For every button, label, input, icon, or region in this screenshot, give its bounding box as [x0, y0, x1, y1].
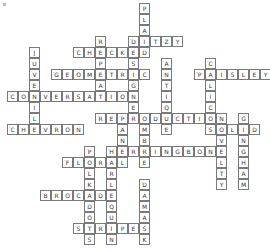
crossword-cell[interactable]: A — [139, 212, 150, 223]
crossword-cell[interactable]: D — [150, 113, 161, 124]
crossword-cell[interactable]: U — [106, 212, 117, 223]
crossword-cell[interactable]: N — [161, 146, 172, 157]
crossword-cell[interactable]: V — [40, 124, 51, 135]
crossword-cell[interactable]: U — [29, 58, 40, 69]
crossword-cell[interactable]: T — [161, 80, 172, 91]
crossword-cell[interactable]: R — [62, 91, 73, 102]
crossword-cell[interactable]: L — [106, 179, 117, 190]
crossword-cell[interactable]: A — [139, 190, 150, 201]
crossword-cell[interactable]: E — [106, 190, 117, 201]
crossword-cell[interactable]: I — [128, 69, 139, 80]
crossword-cell[interactable]: Y — [216, 179, 227, 190]
crossword-cell[interactable]: L — [205, 80, 216, 91]
crossword-cell[interactable]: E — [62, 69, 73, 80]
crossword-cell[interactable]: M — [139, 124, 150, 135]
crossword-cell[interactable]: L — [29, 113, 40, 124]
crossword-cell[interactable]: O — [84, 212, 95, 223]
crossword-cell[interactable]: R — [139, 146, 150, 157]
crossword-cell[interactable]: M — [84, 69, 95, 80]
crossword-cell[interactable]: V — [40, 91, 51, 102]
crossword-cell[interactable]: L — [238, 69, 249, 80]
crossword-cell[interactable]: L — [84, 168, 95, 179]
crossword-cell[interactable]: I — [161, 91, 172, 102]
crossword-cell[interactable]: K — [84, 179, 95, 190]
crossword-cell[interactable]: H — [18, 124, 29, 135]
crossword-cell[interactable]: S — [128, 58, 139, 69]
crossword-cell[interactable]: A — [106, 157, 117, 168]
crossword-cell[interactable]: A — [84, 91, 95, 102]
crossword-cell[interactable]: M — [139, 201, 150, 212]
crossword-cell[interactable]: S — [227, 69, 238, 80]
crossword-cell[interactable]: Y — [260, 69, 270, 80]
crossword-cell[interactable]: A — [139, 25, 150, 36]
crossword-cell[interactable]: R — [128, 146, 139, 157]
crossword-cell[interactable]: E — [29, 80, 40, 91]
crossword-cell[interactable]: ·H — [106, 146, 117, 157]
crossword-cell[interactable]: N — [29, 91, 40, 102]
crossword-cell[interactable]: ·G — [51, 69, 62, 80]
crossword-cell[interactable]: R — [128, 113, 139, 124]
crossword-cell[interactable]: O — [194, 146, 205, 157]
crossword-cell[interactable]: C — [139, 69, 150, 80]
crossword-cell[interactable]: G — [238, 146, 249, 157]
crossword-cell[interactable]: ·S — [73, 223, 84, 234]
crossword-cell[interactable]: L — [117, 157, 128, 168]
crossword-cell[interactable]: ·S — [205, 124, 216, 135]
crossword-cell[interactable]: O — [73, 69, 84, 80]
crossword-cell[interactable]: R — [117, 69, 128, 80]
crossword-cell[interactable]: E — [106, 113, 117, 124]
crossword-cell[interactable]: O — [62, 190, 73, 201]
crossword-cell[interactable]: ·P — [117, 113, 128, 124]
crossword-cell[interactable]: P — [95, 58, 106, 69]
crossword-cell[interactable]: B — [139, 135, 150, 146]
crossword-cell[interactable]: ·D — [128, 36, 139, 47]
crossword-cell[interactable]: N — [106, 234, 117, 245]
crossword-cell[interactable]: E — [128, 47, 139, 58]
crossword-cell[interactable]: D — [249, 124, 260, 135]
crossword-cell[interactable]: E — [216, 146, 227, 157]
crossword-cell[interactable]: ·J — [29, 47, 40, 58]
crossword-cell[interactable]: L — [227, 124, 238, 135]
crossword-cell[interactable]: A — [95, 80, 106, 91]
crossword-cell[interactable]: I — [29, 102, 40, 113]
crossword-cell[interactable]: E — [29, 124, 40, 135]
crossword-cell[interactable]: R — [106, 168, 117, 179]
crossword-cell[interactable]: ·P — [84, 146, 95, 157]
crossword-cell[interactable]: O — [62, 124, 73, 135]
crossword-cell[interactable]: A — [205, 69, 216, 80]
crossword-cell[interactable]: ·B — [40, 190, 51, 201]
crossword-cell[interactable]: N — [205, 146, 216, 157]
crossword-cell[interactable]: E — [128, 223, 139, 234]
crossword-cell[interactable]: N — [128, 91, 139, 102]
crossword-cell[interactable]: B — [183, 146, 194, 157]
crossword-cell[interactable]: O — [117, 91, 128, 102]
crossword-cell[interactable]: I — [205, 91, 216, 102]
crossword-cell[interactable]: N — [238, 135, 249, 146]
crossword-cell[interactable]: E — [128, 102, 139, 113]
crossword-cell[interactable]: K — [139, 234, 150, 245]
crossword-cell[interactable]: N — [117, 135, 128, 146]
crossword-cell[interactable]: S — [84, 234, 95, 245]
crossword-cell[interactable]: ·C — [7, 124, 18, 135]
crossword-cell[interactable]: L — [216, 157, 227, 168]
crossword-cell[interactable]: O — [84, 157, 95, 168]
crossword-cell[interactable]: I — [106, 91, 117, 102]
crossword-cell[interactable]: D — [139, 47, 150, 58]
crossword-cell[interactable]: V — [29, 69, 40, 80]
crossword-cell[interactable]: I — [216, 69, 227, 80]
crossword-cell[interactable]: E — [161, 124, 172, 135]
crossword-cell[interactable]: H — [238, 157, 249, 168]
crossword-cell[interactable]: C — [106, 47, 117, 58]
crossword-cell[interactable]: E — [95, 47, 106, 58]
crossword-cell[interactable]: T — [95, 91, 106, 102]
crossword-cell[interactable]: Q — [106, 201, 117, 212]
crossword-cell[interactable]: R — [95, 157, 106, 168]
crossword-cell[interactable]: ·R — [95, 36, 106, 47]
crossword-cell[interactable]: M — [238, 179, 249, 190]
crossword-cell[interactable]: ·A — [161, 58, 172, 69]
crossword-cell[interactable]: C — [73, 190, 84, 201]
crossword-cell[interactable]: Y — [172, 36, 183, 47]
crossword-cell[interactable]: E — [95, 69, 106, 80]
crossword-cell[interactable]: D — [84, 201, 95, 212]
crossword-cell[interactable]: ·N — [216, 113, 227, 124]
